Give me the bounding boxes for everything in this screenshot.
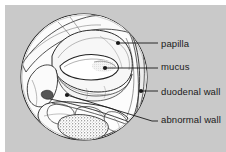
- scope-field: [20, 14, 147, 143]
- label-abnormal-wall: abnormal wall: [161, 115, 221, 125]
- marker-papilla: [116, 41, 120, 45]
- label-duodenal-wall: duodenal wall: [161, 87, 220, 97]
- marker-duodenal: [139, 89, 143, 93]
- left-recess: [41, 90, 53, 99]
- marker-mucus: [103, 66, 107, 70]
- figure-panel: papilla mucus duodenal wall abnormal wal…: [0, 0, 226, 152]
- endoscopic-illustration: [0, 0, 226, 152]
- label-papilla: papilla: [161, 39, 189, 49]
- marker-abnormal: [65, 93, 69, 97]
- label-mucus: mucus: [161, 62, 189, 72]
